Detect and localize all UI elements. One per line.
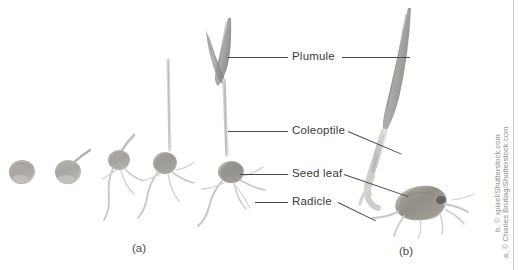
caption-panel-a: (a) <box>132 243 146 255</box>
leader-plumule-left <box>228 57 288 58</box>
stage-5-seedling-leaves <box>198 18 265 226</box>
leader-coleoptile-left <box>228 131 288 132</box>
photograph-area <box>0 0 512 270</box>
credit-line-a: a. © Charles Brutlag/Shutterstock.com <box>502 127 510 258</box>
credit-line-b: b. © xpixel/Shutterstock.com <box>494 134 502 232</box>
caption-panel-b: (b) <box>399 246 413 258</box>
leader-radicle-left <box>255 202 288 203</box>
stage-4-seedling-shoot <box>138 60 194 218</box>
leader-seedleaf-left <box>240 174 288 175</box>
label-plumule: Plumule <box>292 51 335 63</box>
stage-3-seedling-roots <box>102 135 142 220</box>
label-coleoptile: Coleoptile <box>292 125 345 137</box>
stage-2-seed-radicle <box>55 150 90 184</box>
figure-germination-stages: Plumule Coleoptile Seed leaf Radicle (a)… <box>0 0 518 270</box>
label-radicle: Radicle <box>292 196 332 208</box>
leader-plumule-right <box>342 57 410 58</box>
label-seed-leaf: Seed leaf <box>292 168 342 180</box>
seedling-artwork <box>0 0 512 270</box>
panel-b-seedling <box>360 8 474 238</box>
right-divider-rule <box>513 0 514 270</box>
stage-1-seed <box>9 160 35 184</box>
